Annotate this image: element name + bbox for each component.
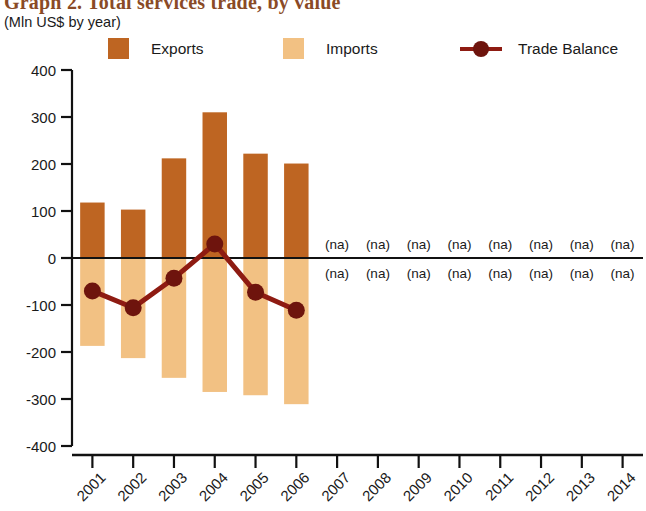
chart-svg: 4003002001000-100-200-300-400(na)(na)(na… (0, 0, 646, 511)
x-axis-tick-label: 2004 (195, 469, 231, 505)
x-axis-tick-label: 2013 (562, 469, 598, 505)
trade-balance-point[interactable] (125, 299, 142, 316)
chart-plot-area: 4003002001000-100-200-300-400(na)(na)(na… (0, 0, 646, 511)
na-label: (na) (325, 237, 349, 252)
x-axis-tick-label: 2010 (440, 469, 476, 505)
trade-balance-point[interactable] (84, 282, 101, 299)
bar-exports[interactable] (162, 158, 186, 258)
chart-generated-content: 4003002001000-100-200-300-400(na)(na)(na… (26, 62, 643, 505)
na-label: (na) (447, 266, 471, 281)
x-axis-tick-label: 2014 (603, 469, 639, 505)
y-axis-tick-label: 400 (31, 62, 56, 79)
na-label: (na) (529, 266, 553, 281)
bar-exports[interactable] (243, 154, 267, 258)
na-label: (na) (611, 266, 635, 281)
na-label: (na) (407, 266, 431, 281)
na-label: (na) (488, 266, 512, 281)
y-axis-tick-label: -300 (26, 391, 56, 408)
na-label: (na) (611, 237, 635, 252)
bar-exports[interactable] (121, 210, 145, 258)
na-label: (na) (366, 237, 390, 252)
y-axis-tick-label: -200 (26, 344, 56, 361)
bar-exports[interactable] (284, 164, 308, 258)
na-label: (na) (570, 237, 594, 252)
x-axis-tick-label: 2011 (482, 469, 517, 504)
na-label: (na) (325, 266, 349, 281)
y-axis-tick-label: -400 (26, 438, 56, 455)
trade-balance-point[interactable] (247, 284, 264, 301)
x-axis-tick-label: 2009 (399, 469, 435, 505)
x-axis-tick-label: 2001 (73, 469, 109, 505)
trade-balance-point[interactable] (165, 270, 182, 287)
x-axis-tick-label: 2008 (359, 469, 395, 505)
x-axis-tick-label: 2003 (155, 469, 191, 505)
bar-imports[interactable] (284, 258, 308, 404)
na-label: (na) (488, 237, 512, 252)
trade-balance-point[interactable] (288, 302, 305, 319)
y-axis-tick-label: 200 (31, 156, 56, 173)
x-axis-tick-label: 2006 (277, 469, 313, 505)
na-label: (na) (529, 237, 553, 252)
y-axis-tick-label: 100 (31, 203, 56, 220)
x-axis-tick-label: 2005 (236, 469, 272, 505)
na-label: (na) (447, 237, 471, 252)
na-label: (na) (366, 266, 390, 281)
y-axis-tick-label: 300 (31, 109, 56, 126)
bar-exports[interactable] (80, 203, 104, 258)
na-label: (na) (570, 266, 594, 281)
bar-imports[interactable] (203, 258, 227, 392)
na-label: (na) (407, 237, 431, 252)
x-axis-tick-label: 2012 (522, 469, 558, 505)
x-axis-tick-label: 2002 (114, 469, 150, 505)
y-axis-tick-label: 0 (48, 250, 56, 267)
bar-imports[interactable] (80, 258, 104, 346)
x-axis-tick-label: 2007 (318, 469, 354, 505)
y-axis-tick-label: -100 (26, 297, 56, 314)
trade-balance-point[interactable] (206, 235, 223, 252)
